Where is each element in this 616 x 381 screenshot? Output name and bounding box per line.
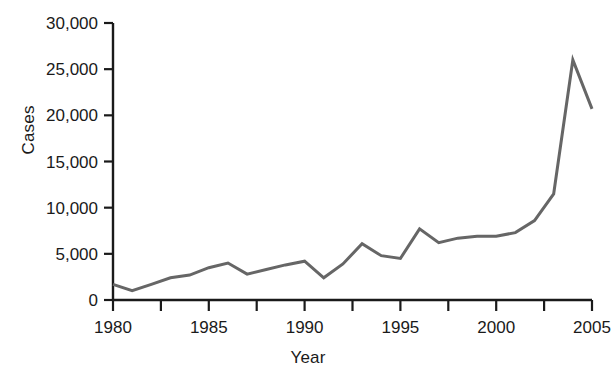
x-tick-label: 2005 (573, 318, 611, 337)
y-axis-title: Cases (19, 85, 39, 175)
y-tick-label: 30,000 (46, 14, 98, 33)
y-axis-tick-labels: 05,00010,00015,00020,00025,00030,000 (46, 14, 98, 310)
chart-canvas: 05,00010,00015,00020,00025,00030,000 198… (0, 0, 616, 381)
y-tick-label: 0 (89, 291, 98, 310)
x-tick-label: 1980 (94, 318, 132, 337)
y-tick-label: 15,000 (46, 153, 98, 172)
x-tick-label: 2000 (477, 318, 515, 337)
x-axis-title: Year (0, 348, 616, 368)
axis-tick-marks (104, 23, 592, 311)
x-axis-tick-labels: 198019851990199520002005 (94, 318, 611, 337)
x-tick-label: 1995 (381, 318, 419, 337)
y-tick-label: 25,000 (46, 60, 98, 79)
axis-lines (113, 23, 592, 300)
y-tick-label: 20,000 (46, 106, 98, 125)
line-chart: 05,00010,00015,00020,00025,00030,000 198… (0, 0, 616, 381)
data-series-line (113, 60, 592, 291)
x-tick-label: 1990 (286, 318, 324, 337)
x-tick-label: 1985 (190, 318, 228, 337)
y-tick-label: 10,000 (46, 199, 98, 218)
y-tick-label: 5,000 (55, 245, 98, 264)
